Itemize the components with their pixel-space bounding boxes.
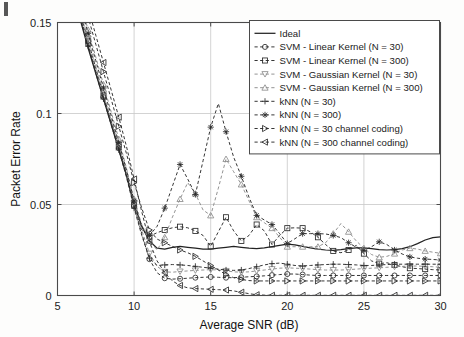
legend-label: SVM - Gaussian Kernel (N = 300) [280,82,423,93]
ytick-label: 0.05 [30,199,51,211]
legend-label: kNN (N = 300) [280,109,342,120]
data-point-marker [86,14,91,20]
legend-label: SVM - Gaussian Kernel (N = 30) [280,69,418,80]
legend-label: kNN (N = 30 channel coding) [280,123,403,134]
legend-label: SVM - Linear Kernel (N = 300) [280,55,409,66]
y-axis-title: Packet Error Rate [9,111,23,207]
legend-label: SVM - Linear Kernel (N = 30) [280,41,404,52]
data-point-marker [131,198,137,204]
ytick-label: 0 [45,290,51,302]
legend-label: kNN (N = 300 channel coding) [280,137,409,148]
ytick-label: 0.15 [30,17,51,29]
legend-label: Ideal [280,28,301,39]
xtick-label: 30 [434,300,446,312]
data-point-marker [85,5,90,11]
data-point-marker [262,112,268,118]
xtick-label: 25 [358,300,370,312]
xtick-label: 20 [281,300,293,312]
data-point-marker [345,240,351,246]
legend: IdealSVM - Linear Kernel (N = 30)SVM - L… [250,21,440,154]
xtick-label: 5 [54,300,60,312]
data-point-marker [85,30,91,36]
xtick-label: 15 [205,300,217,312]
legend-label: kNN (N = 30) [280,96,336,107]
figure-root: 5101520253000.050.10.15Average SNR (dB)P… [0,0,464,337]
data-point-marker [100,85,106,91]
x-tick-labels: 51015202530 [54,300,446,312]
xtick-label: 10 [128,300,140,312]
y-tick-labels: 00.050.10.15 [30,17,51,302]
ytick-label: 0.1 [36,108,51,120]
chart-canvas: 5101520253000.050.10.15Average SNR (dB)P… [0,0,464,337]
x-axis-title: Average SNR (dB) [199,318,298,332]
